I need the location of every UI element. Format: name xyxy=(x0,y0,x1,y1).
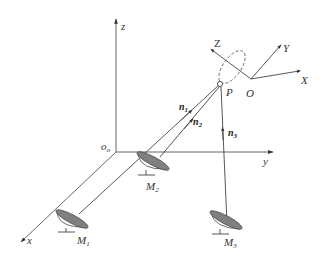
beam-lines xyxy=(79,85,227,223)
n2-label: n2 xyxy=(193,116,203,129)
n3-subscript: 3 xyxy=(233,132,238,140)
coordinate-diagram: z y x oo n1 n2 n3 Z Y X O P xyxy=(0,0,324,262)
line-m1-to-p xyxy=(79,85,219,214)
m3-label: M3 xyxy=(223,236,237,250)
local-x-label: X xyxy=(300,74,309,86)
y-axis-label: y xyxy=(262,155,268,167)
mirror-m3: M3 xyxy=(208,208,244,250)
local-y-axis xyxy=(251,46,280,79)
mirror-m1: M1 xyxy=(54,207,90,248)
m1-label: M1 xyxy=(76,234,90,248)
n1-subscript: 1 xyxy=(185,106,189,114)
local-x-axis xyxy=(251,71,299,79)
m2-label: M2 xyxy=(145,180,159,194)
x-axis xyxy=(21,152,116,242)
line-m2-to-p xyxy=(160,86,220,157)
n2-arrow xyxy=(184,120,192,129)
point-p-label: P xyxy=(225,86,233,98)
point-p-marker xyxy=(217,81,222,86)
local-origin-label: O xyxy=(246,87,254,99)
m2-subscript: 2 xyxy=(155,186,159,194)
x-axis-label: x xyxy=(26,234,32,246)
mirror-m2: M2 xyxy=(135,149,171,194)
m3-subscript: 3 xyxy=(232,242,237,250)
line-m3-to-p xyxy=(221,87,227,223)
z-axis-label: z xyxy=(120,20,126,32)
global-origin-label: oo xyxy=(101,140,111,154)
n1-label: n1 xyxy=(179,101,188,114)
n3-label: n3 xyxy=(228,127,238,140)
local-y-label: Y xyxy=(283,42,291,54)
n2-subscript: 2 xyxy=(198,121,203,129)
local-z-label: Z xyxy=(214,37,221,49)
m1-subscript: 1 xyxy=(86,240,90,248)
global-origin-subscript: o xyxy=(107,146,111,154)
